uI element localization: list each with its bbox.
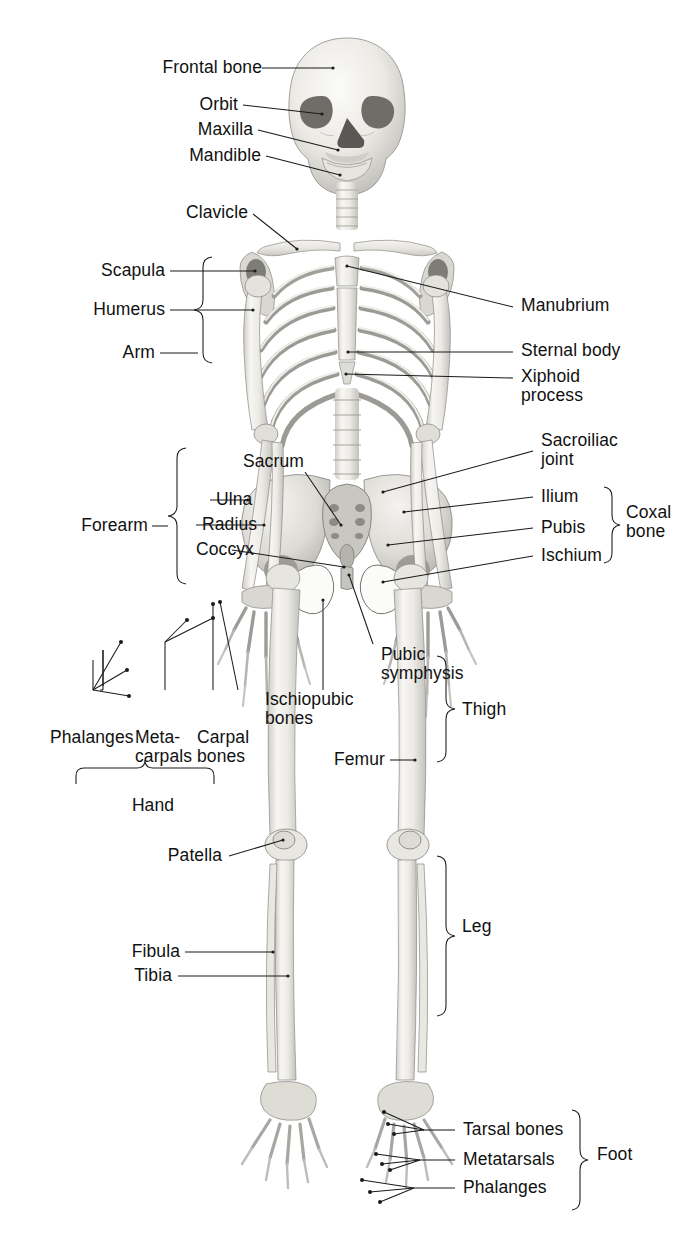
label-metacarpals-line1: Meta-	[135, 728, 180, 747]
label-ischiopubic-line2: bones	[265, 709, 313, 728]
label-foot: Foot	[597, 1145, 632, 1164]
right-foot	[367, 1081, 452, 1188]
label-coxal-line2: bone	[626, 522, 665, 541]
left-lower-limb	[242, 564, 327, 1188]
label-scapula: Scapula	[40, 261, 165, 280]
label-xiphoid-line2: process	[521, 386, 583, 405]
label-humerus: Humerus	[40, 300, 165, 319]
label-arm: Arm	[40, 343, 155, 362]
label-maxilla: Maxilla	[120, 120, 253, 139]
label-patella: Patella	[120, 846, 222, 865]
label-forearm: Forearm	[28, 516, 148, 535]
label-ilium: Ilium	[541, 487, 578, 506]
label-clavicle: Clavicle	[110, 203, 248, 222]
label-coccyx: Coccyx	[196, 540, 254, 559]
label-sternal-body: Sternal body	[521, 341, 620, 360]
skeleton-diagram: Frontal bone Orbit Maxilla Mandible Clav…	[0, 0, 694, 1255]
label-sacrum: Sacrum	[243, 452, 304, 471]
label-ischium: Ischium	[541, 546, 602, 565]
label-xiphoid-line1: Xiphoid	[521, 367, 580, 386]
label-femur: Femur	[300, 750, 385, 769]
label-metatarsals: Metatarsals	[463, 1150, 555, 1169]
label-sacroiliac-line1: Sacroiliac	[541, 431, 618, 450]
label-radius: Radius	[202, 515, 257, 534]
label-tarsal-bones: Tarsal bones	[463, 1120, 563, 1139]
label-pubic-line1: Pubic	[381, 645, 425, 664]
label-mandible: Mandible	[120, 146, 261, 165]
sternum	[335, 256, 359, 384]
leader-lines	[60, 66, 620, 1210]
label-pubic-line2: symphysis	[381, 664, 464, 683]
label-orbit: Orbit	[120, 95, 238, 114]
label-pubis: Pubis	[541, 518, 585, 537]
label-tibia: Tibia	[100, 966, 172, 985]
label-manubrium: Manubrium	[521, 296, 609, 315]
label-frontal-bone: Frontal bone	[120, 58, 262, 77]
skull	[289, 38, 405, 195]
lumbar-spine	[333, 388, 361, 480]
label-thigh: Thigh	[462, 700, 506, 719]
label-fibula: Fibula	[100, 942, 180, 961]
label-phalanges-hand: Phalanges	[50, 728, 134, 747]
label-hand: Hand	[86, 796, 220, 815]
skeleton-illustration	[0, 0, 694, 1255]
label-ischiopubic-line1: Ischiopubic	[265, 690, 354, 709]
label-sacroiliac-line2: joint	[541, 450, 574, 469]
label-carpal-line1: Carpal	[197, 728, 249, 747]
label-leg: Leg	[462, 917, 492, 936]
left-foot	[242, 1081, 327, 1188]
label-metacarpals-line2: carpals	[135, 747, 192, 766]
label-ulna: Ulna	[216, 490, 252, 509]
label-coxal-line1: Coxal	[626, 503, 671, 522]
label-phalanges-foot: Phalanges	[463, 1178, 547, 1197]
cervical-spine	[336, 182, 358, 230]
label-carpal-line2: bones	[197, 747, 245, 766]
